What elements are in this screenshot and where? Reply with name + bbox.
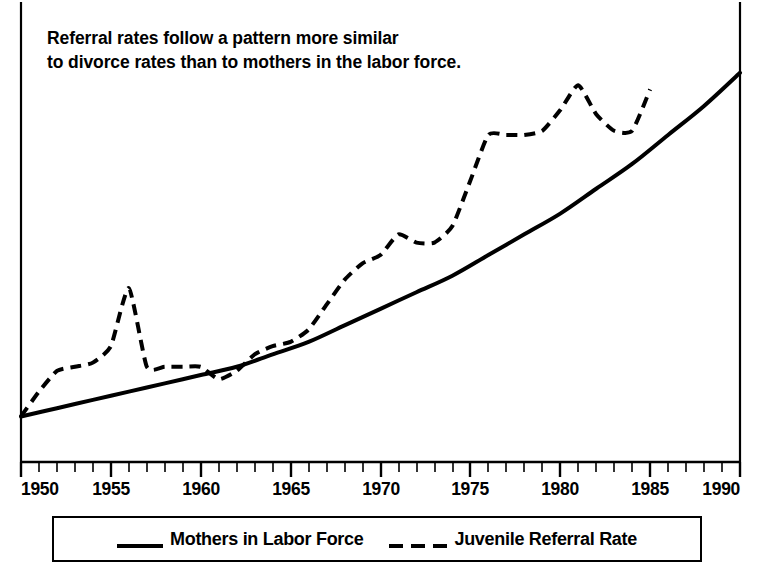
x-tick-label-1970: 1970 [362, 479, 400, 499]
solid-line-swatch-icon [117, 544, 163, 548]
x-tick-label-1960: 1960 [182, 479, 220, 499]
legend-entry-juvenile-referral-rate: Juvenile Referral Rate [389, 529, 637, 550]
x-tick-label-1950: 1950 [21, 479, 59, 499]
series-line-juvenile-referral-rate [21, 85, 650, 416]
dashed-line-swatch-icon [389, 544, 447, 548]
x-tick-label-1965: 1965 [272, 479, 310, 499]
x-tick-label-1990: 1990 [702, 479, 740, 499]
x-tick-label-1955: 1955 [92, 479, 130, 499]
legend-entry-mothers-in-labor-force: Mothers in Labor Force [117, 529, 363, 550]
x-tick-label-1975: 1975 [451, 479, 489, 499]
x-tick-label-1980: 1980 [541, 479, 579, 499]
legend-label-juvenile-referral-rate: Juvenile Referral Rate [454, 529, 637, 550]
legend-label-mothers-in-labor-force: Mothers in Labor Force [170, 529, 363, 550]
series-line-mothers-in-labor-force [21, 73, 740, 417]
x-tick-label-1985: 1985 [631, 479, 669, 499]
chart-legend: Mothers in Labor Force Juvenile Referral… [52, 516, 702, 562]
